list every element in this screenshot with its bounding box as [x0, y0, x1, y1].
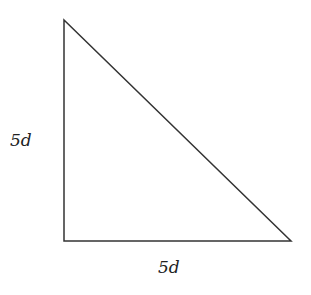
vertical-leg-label: 5d — [10, 130, 32, 150]
triangle-shape — [64, 20, 291, 241]
horizontal-leg-label: 5d — [158, 257, 180, 277]
diagram-canvas: 5d 5d — [0, 0, 311, 295]
right-triangle — [0, 0, 311, 295]
